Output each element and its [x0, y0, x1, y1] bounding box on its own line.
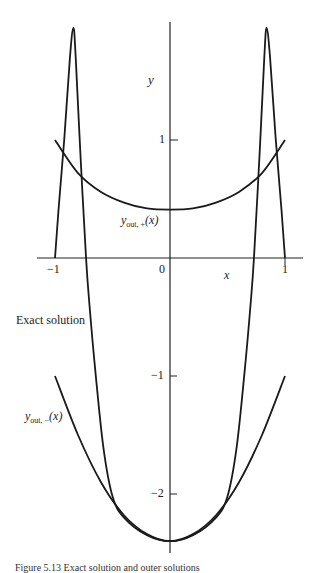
y-tick-label-1: 1 — [159, 132, 165, 147]
yout-minus-sub: out, − — [30, 416, 49, 425]
x-tick-label-0: 0 — [159, 262, 165, 277]
x-tick-label-m1: −1 — [47, 262, 60, 277]
yout-plus-arg: (x) — [145, 213, 158, 227]
y-tick-label-m2: −2 — [151, 486, 164, 501]
yout-minus-label: yout, −(x) — [25, 409, 62, 425]
exact-solution-label: Exact solution — [16, 313, 85, 328]
yout-plus-label: yout, +(x) — [121, 213, 158, 229]
y-axis-label: y — [148, 72, 154, 88]
yout-minus-arg: (x) — [49, 409, 62, 423]
figure-caption: Figure 5.13 Exact solution and outer sol… — [15, 562, 200, 573]
x-tick-label-1: 1 — [282, 262, 288, 277]
y-tick-label-m1: −1 — [151, 368, 164, 383]
x-axis-label: x — [224, 268, 229, 283]
yout-plus-sub: out, + — [126, 220, 145, 229]
